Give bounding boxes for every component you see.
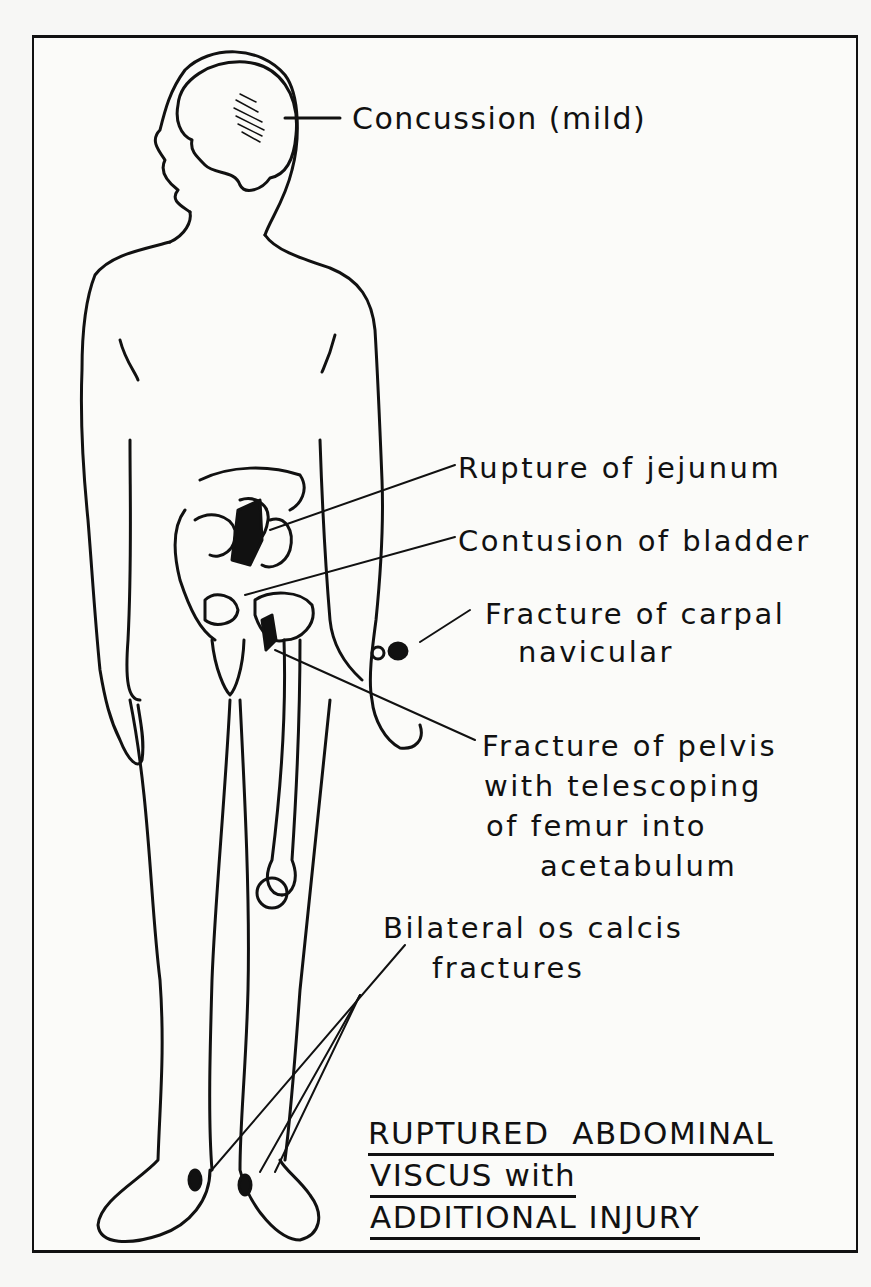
carpal-injury-mark xyxy=(372,643,407,659)
body-outline xyxy=(81,235,421,1242)
concussion-label: Concussion (mild) xyxy=(352,100,646,138)
pelvis-injury-mark xyxy=(262,615,276,650)
pelvis-label-line2: with telescoping xyxy=(484,767,762,805)
pelvis-label-line1: Fracture of pelvis xyxy=(482,727,777,765)
pelvis-label-line3: of femur into xyxy=(486,807,707,845)
carpal-label-line2: navicular xyxy=(518,633,674,671)
carpal-label-line1: Fracture of carpal xyxy=(485,595,785,633)
concussion-mark xyxy=(234,94,264,142)
human-figure-illustration xyxy=(0,0,871,1287)
right-calcis-injury-mark xyxy=(239,1175,251,1195)
left-calcis-injury-mark xyxy=(189,1170,201,1190)
title-line-1: RUPTURED ABDOMINAL xyxy=(368,1115,774,1156)
head-outline xyxy=(155,52,297,242)
calcis-label-line2: fractures xyxy=(432,949,584,987)
bladder-label: Contusion of bladder xyxy=(458,522,811,560)
jejunum-label: Rupture of jejunum xyxy=(458,449,781,487)
jejunum-injury-mark xyxy=(232,500,262,565)
title-line-2: VISCUS with xyxy=(370,1157,576,1198)
title-line-3: ADDITIONAL INJURY xyxy=(370,1199,700,1240)
calcis-label-line1: Bilateral os calcis xyxy=(383,909,683,947)
pointer-lines xyxy=(210,465,475,1172)
femur-bone xyxy=(257,640,300,908)
pelvis-label-line4: acetabulum xyxy=(540,847,737,885)
